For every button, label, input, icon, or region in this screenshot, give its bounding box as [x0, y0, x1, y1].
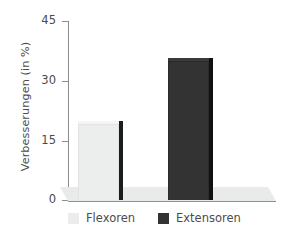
bar-chart-figure: Verbesserungen (in %) 45 30 15 0 [0, 0, 286, 239]
bar-extensoren [168, 61, 209, 200]
y-tick-mark-30 [62, 81, 69, 82]
legend-label-flexoren: Flexoren [86, 213, 135, 225]
y-tick-label-0: 0 [16, 194, 56, 206]
legend-item-flexoren: Flexoren [68, 213, 135, 225]
chart-legend: Flexoren Extensoren [60, 213, 280, 231]
bar-extensoren-front-face [168, 61, 209, 200]
legend-swatch-flexoren [68, 213, 79, 224]
plot-area: 45 30 15 0 [0, 0, 286, 239]
y-tick-label-30: 30 [16, 75, 56, 87]
legend-label-extensoren: Extensoren [176, 213, 241, 225]
y-tick-label-15: 15 [16, 135, 56, 147]
y-tick-mark-45 [62, 21, 69, 22]
y-tick-label-45: 45 [16, 15, 56, 27]
bar-extensoren-side-face [209, 58, 213, 200]
bar-flexoren-front-face [78, 124, 119, 200]
bar-flexoren [78, 124, 119, 200]
y-tick-mark-15 [62, 141, 69, 142]
y-axis-line [68, 21, 69, 201]
legend-swatch-extensoren [158, 213, 169, 224]
bar-flexoren-side-face [119, 121, 123, 200]
legend-item-extensoren: Extensoren [158, 213, 241, 225]
